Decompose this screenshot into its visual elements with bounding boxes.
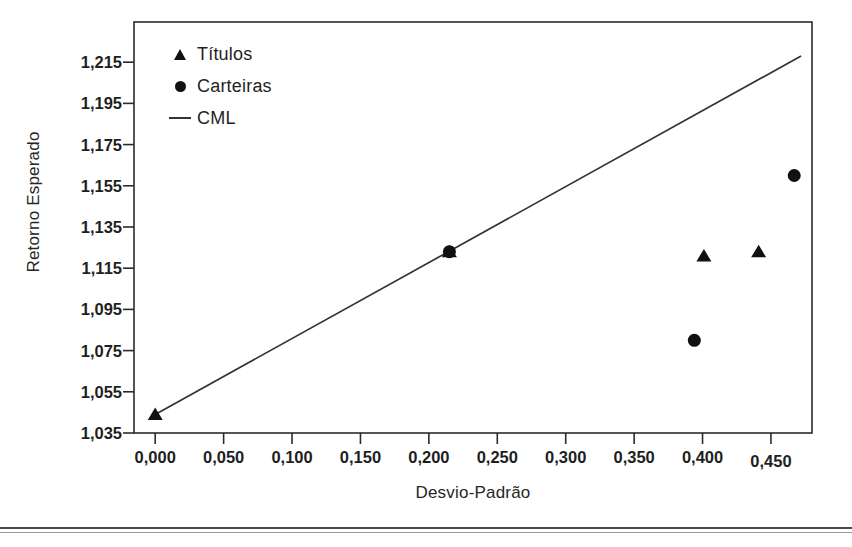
chart-legend: Títulos Carteiras CML [163, 38, 353, 134]
x-axis-title: Desvio-Padrão [134, 483, 812, 503]
legend-item-carteiras: Carteiras [163, 70, 353, 102]
x-axis-tick-labels: 0,0000,0500,1000,1500,2000,2500,3000,350… [0, 0, 852, 547]
legend-label-carteiras: Carteiras [197, 76, 272, 97]
legend-item-titulos: Títulos [163, 38, 353, 70]
line-marker-icon [163, 117, 197, 119]
triangle-marker-icon [163, 49, 197, 60]
page-divider-rule [0, 527, 852, 529]
legend-label-titulos: Títulos [197, 44, 252, 65]
page-divider-rule-secondary [0, 532, 852, 533]
circle-marker-icon [163, 81, 197, 92]
y-axis-title: Retorno Esperado [24, 102, 44, 302]
scatter-chart-figure: 1,0351,0551,0751,0951,1151,1351,1551,175… [0, 0, 852, 547]
x-axis-tick-label: 0,450 [726, 452, 816, 471]
legend-label-cml: CML [197, 108, 236, 129]
legend-item-cml: CML [163, 102, 353, 134]
